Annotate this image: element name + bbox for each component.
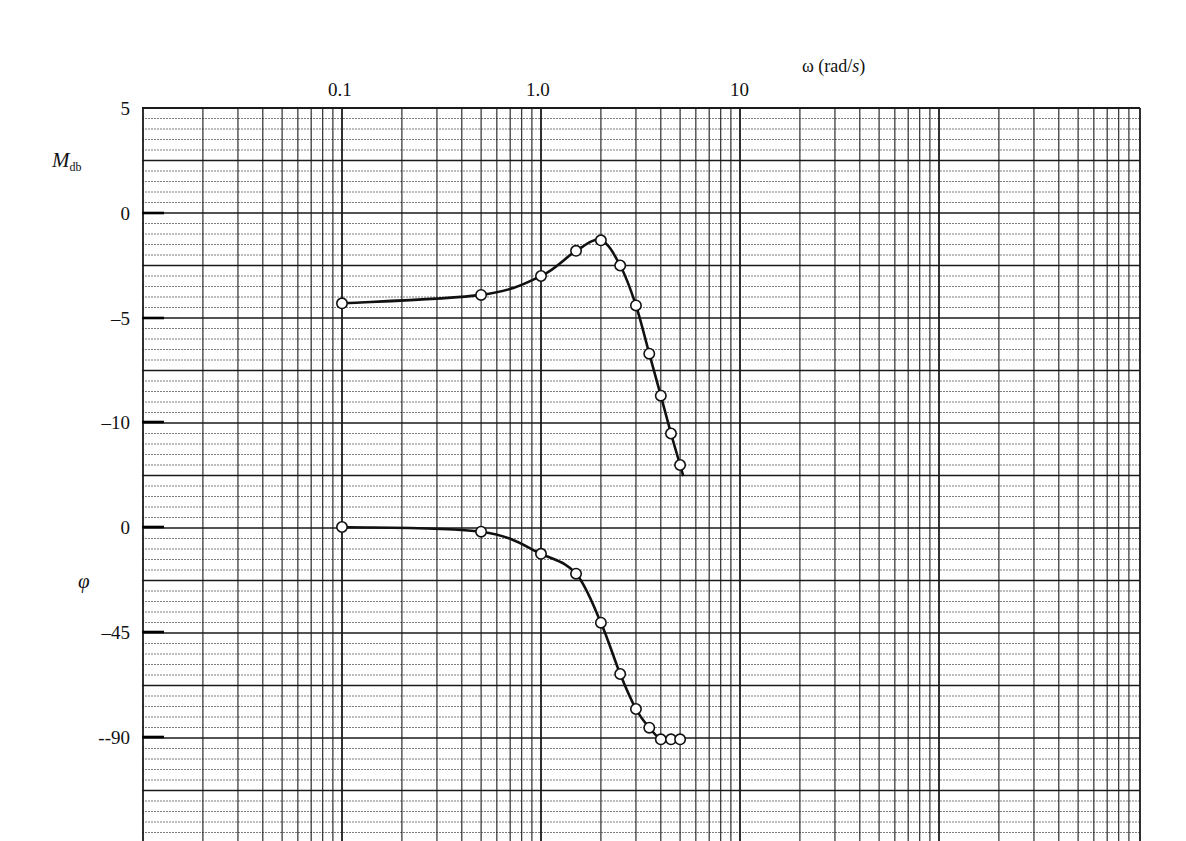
x-axis-close-paren: ) [859, 56, 865, 76]
phase-data-point [596, 617, 606, 627]
magnitude-data-point [337, 298, 347, 308]
x-tick-label-0-1: 0.1 [328, 80, 352, 99]
magnitude-data-point [596, 235, 606, 245]
log-grid [142, 108, 1140, 841]
phase-data-point [337, 522, 347, 532]
phase-tick-0: 0 [70, 518, 130, 537]
phase-data-point [476, 526, 486, 536]
magnitude-axis-label: Mdb [52, 150, 82, 173]
x-axis-label-text: ω (rad/ [802, 56, 852, 76]
magnitude-curve [342, 240, 683, 476]
x-tick-label-1-0: 1.0 [526, 80, 550, 99]
magnitude-label-main: M [52, 148, 70, 172]
mag-tick-minus-5: –5 [70, 309, 130, 328]
magnitude-data-point [631, 300, 641, 310]
mag-tick-minus-10: –10 [70, 413, 130, 432]
magnitude-data-point [536, 271, 546, 281]
phase-data-point [644, 722, 654, 732]
phase-data-point [536, 549, 546, 559]
magnitude-data-point [644, 349, 654, 359]
x-axis-label: ω (rad/s) [802, 57, 865, 75]
phase-axis-label: φ [78, 571, 90, 592]
phase-data-point [656, 734, 666, 744]
magnitude-data-point [571, 246, 581, 256]
mag-tick-5: 5 [70, 99, 130, 118]
phase-data-point [631, 704, 641, 714]
data-curves [337, 235, 685, 744]
magnitude-data-point [615, 260, 625, 270]
mag-tick-0: 0 [70, 204, 130, 223]
magnitude-label-sub: db [70, 160, 82, 174]
bode-plot [0, 0, 1186, 841]
magnitude-data-point [656, 391, 666, 401]
magnitude-data-point [675, 460, 685, 470]
magnitude-data-point [476, 290, 486, 300]
phase-tick-minus-90: --90 [70, 728, 130, 747]
magnitude-data-point [666, 428, 676, 438]
phase-data-point [571, 568, 581, 578]
phase-tick-minus-45: –45 [70, 623, 130, 642]
phase-data-point [675, 734, 685, 744]
x-tick-label-10: 10 [730, 80, 749, 99]
phase-data-point [615, 669, 625, 679]
